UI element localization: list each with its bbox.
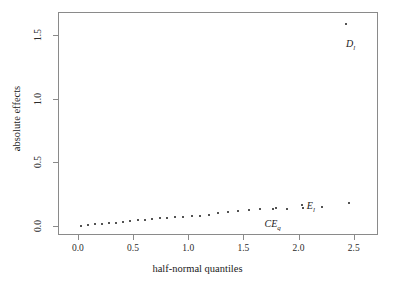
y-tick-label: 1.0 [33, 93, 43, 105]
y-tick [53, 99, 58, 100]
data-point [301, 204, 303, 206]
data-point [122, 221, 124, 223]
data-point [191, 215, 193, 217]
data-point [272, 208, 274, 210]
data-point [182, 216, 184, 218]
y-axis-label: absolute effects [11, 59, 22, 179]
data-point [348, 202, 350, 204]
x-tick-label: 1.0 [182, 243, 194, 253]
data-point [217, 212, 219, 214]
x-tick-label: 0.5 [127, 243, 139, 253]
data-point [199, 215, 201, 217]
point-label-e: El [307, 200, 315, 214]
y-tick [53, 162, 58, 163]
x-tick [354, 235, 355, 240]
data-point [248, 209, 250, 211]
x-tick [133, 235, 134, 240]
data-point [80, 225, 82, 227]
y-tick [53, 35, 58, 36]
data-point [321, 206, 323, 208]
plot-area: CEqElDl [58, 12, 378, 235]
data-point [227, 211, 229, 213]
data-point [166, 217, 168, 219]
y-tick [53, 226, 58, 227]
point-label-d: Dl [346, 38, 355, 52]
data-point [286, 208, 288, 210]
x-tick-label: 1.5 [237, 243, 249, 253]
x-tick-label: 0.0 [72, 243, 84, 253]
y-tick-label: 1.5 [33, 29, 43, 41]
x-tick-label: 2.0 [293, 243, 305, 253]
data-point [208, 214, 210, 216]
data-point [137, 219, 139, 221]
data-point [237, 210, 239, 212]
data-point [345, 23, 347, 25]
data-point [302, 207, 304, 209]
data-point [101, 223, 103, 225]
point-label-subscript: q [277, 224, 281, 232]
point-label-ce: CEq [264, 218, 280, 232]
x-tick-label: 2.5 [348, 243, 360, 253]
point-label-text: CE [264, 218, 277, 229]
data-point [259, 208, 261, 210]
x-tick [299, 235, 300, 240]
data-point [151, 218, 153, 220]
data-point [144, 219, 146, 221]
x-axis-label: half-normal quantiles [0, 263, 395, 274]
x-tick [78, 235, 79, 240]
data-point [174, 216, 176, 218]
data-point [108, 222, 110, 224]
data-point [129, 220, 131, 222]
x-tick [243, 235, 244, 240]
data-point [115, 222, 117, 224]
y-tick-label: 0.0 [33, 220, 43, 232]
point-label-subscript: l [313, 206, 315, 214]
point-label-subscript: l [353, 44, 355, 52]
data-point [159, 217, 161, 219]
data-point [94, 223, 96, 225]
data-point [87, 224, 89, 226]
x-tick [188, 235, 189, 240]
data-point [275, 207, 277, 209]
half-normal-plot-figure: CEqElDl 0.00.51.01.52.02.50.00.51.01.5 h… [0, 0, 395, 293]
y-tick-label: 0.5 [33, 156, 43, 168]
